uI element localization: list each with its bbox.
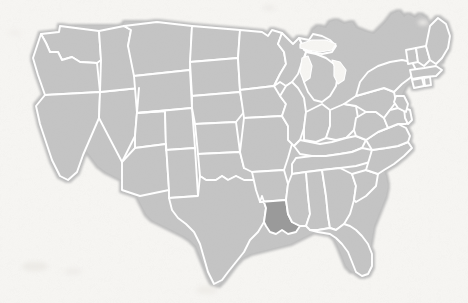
paper-grain-overlay [0, 0, 468, 303]
us-map-svg: Outline map of the contiguous United Sta… [0, 0, 468, 303]
us-landmass [0, 0, 468, 303]
us-map-figure: Outline map of the contiguous United Sta… [0, 0, 468, 303]
